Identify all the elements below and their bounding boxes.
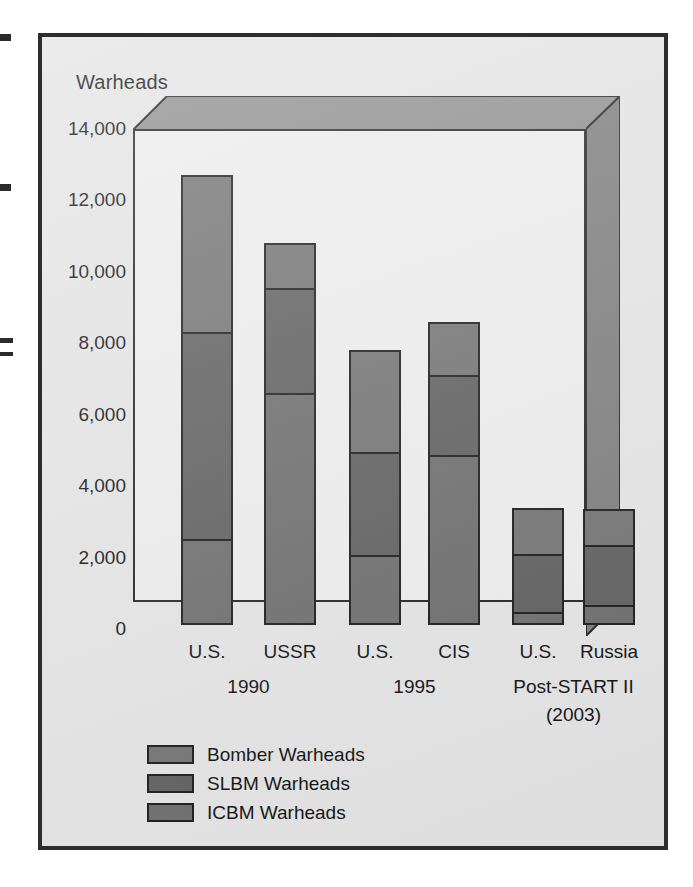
legend-color-swatch xyxy=(147,774,194,793)
y-axis-tick-label: 8,000 xyxy=(78,332,126,354)
scan-artifact-mark xyxy=(0,34,11,41)
bar-segment[interactable] xyxy=(428,322,480,377)
legend-item[interactable]: SLBM Warheads xyxy=(147,770,365,797)
bar-segment[interactable] xyxy=(264,288,316,395)
scan-artifact-mark xyxy=(0,352,13,356)
y-axis-tick-label: 10,000 xyxy=(68,261,126,283)
x-axis-group-label: 1990 xyxy=(227,676,269,698)
bar-segment[interactable] xyxy=(264,243,316,289)
bar-stack[interactable] xyxy=(583,509,635,629)
bar-segment[interactable] xyxy=(181,539,233,625)
bar-stack[interactable] xyxy=(264,243,316,629)
legend-item-label: Bomber Warheads xyxy=(207,744,365,766)
bar-segment[interactable] xyxy=(512,612,564,625)
bar-segment[interactable] xyxy=(264,393,316,625)
y-axis-tick-label: 0 xyxy=(115,618,126,640)
bar-segment[interactable] xyxy=(512,554,564,615)
chart-legend: Bomber WarheadsSLBM WarheadsICBM Warhead… xyxy=(147,741,365,828)
bar-segment[interactable] xyxy=(349,555,401,625)
x-axis-bar-label: Russia xyxy=(580,641,638,663)
bar-stack[interactable] xyxy=(512,508,564,629)
bar-segment[interactable] xyxy=(583,605,635,625)
bar-segment[interactable] xyxy=(583,545,635,608)
scan-artifact-mark xyxy=(0,184,11,191)
bar-stack[interactable] xyxy=(349,350,401,629)
bar-segment[interactable] xyxy=(428,375,480,457)
legend-item[interactable]: Bomber Warheads xyxy=(147,741,365,768)
bar-segment[interactable] xyxy=(181,175,233,334)
bar-segment[interactable] xyxy=(428,455,480,625)
bar-segment[interactable] xyxy=(583,509,635,547)
legend-item-label: ICBM Warheads xyxy=(207,802,346,824)
bar-segment[interactable] xyxy=(349,452,401,557)
y-axis-tick-label: 12,000 xyxy=(68,189,126,211)
x-axis-bar-label: U.S. xyxy=(189,641,226,663)
y-axis-tick-label: 4,000 xyxy=(78,475,126,497)
x-axis-group-sublabel: (2003) xyxy=(546,704,601,726)
y-axis-tick-label: 6,000 xyxy=(78,404,126,426)
x-axis-bar-label: CIS xyxy=(438,641,470,663)
bar-stack[interactable] xyxy=(181,175,233,629)
x-axis-group-label: Post-START II xyxy=(513,676,633,698)
y-axis-tick-label: 14,000 xyxy=(68,118,126,140)
bar-segment[interactable] xyxy=(181,332,233,541)
legend-item[interactable]: ICBM Warheads xyxy=(147,799,365,826)
scan-artifact-mark xyxy=(0,338,13,343)
x-axis-bar-label: USSR xyxy=(264,641,317,663)
chart-figure-frame: Warheads 02,0004,0006,0008,00010,00012,0… xyxy=(38,33,668,850)
y-axis-tick-labels: 02,0004,0006,0008,00010,00012,00014,000 xyxy=(42,37,126,887)
y-axis-tick-label: 2,000 xyxy=(78,547,126,569)
legend-color-swatch xyxy=(147,745,194,764)
legend-item-label: SLBM Warheads xyxy=(207,773,350,795)
bar-segment[interactable] xyxy=(349,350,401,454)
legend-color-swatch xyxy=(147,803,194,822)
x-axis-bar-label: U.S. xyxy=(520,641,557,663)
x-axis-group-label: 1995 xyxy=(393,676,435,698)
x-axis-bar-label: U.S. xyxy=(357,641,394,663)
bar-stack[interactable] xyxy=(428,322,480,629)
bar-segment[interactable] xyxy=(512,508,564,556)
